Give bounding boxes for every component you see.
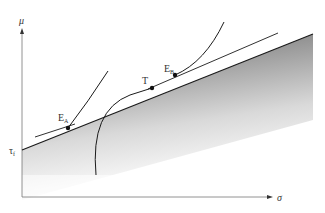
- efficient-frontier-diagram: μ σ τf EA EB T: [0, 0, 325, 213]
- point-T: [150, 86, 154, 90]
- y-intercept-label: τf: [9, 145, 15, 157]
- diagram-canvas: μ σ τf EA EB T: [0, 0, 325, 213]
- label-T: T: [142, 75, 148, 86]
- label-EB: EB: [164, 63, 174, 75]
- label-EA: EA: [58, 112, 69, 124]
- point-EA: [66, 126, 70, 130]
- y-axis-label: μ: [18, 15, 24, 26]
- y-axis-arrow-icon: [20, 28, 24, 34]
- shade-fade-mask: [22, 175, 313, 197]
